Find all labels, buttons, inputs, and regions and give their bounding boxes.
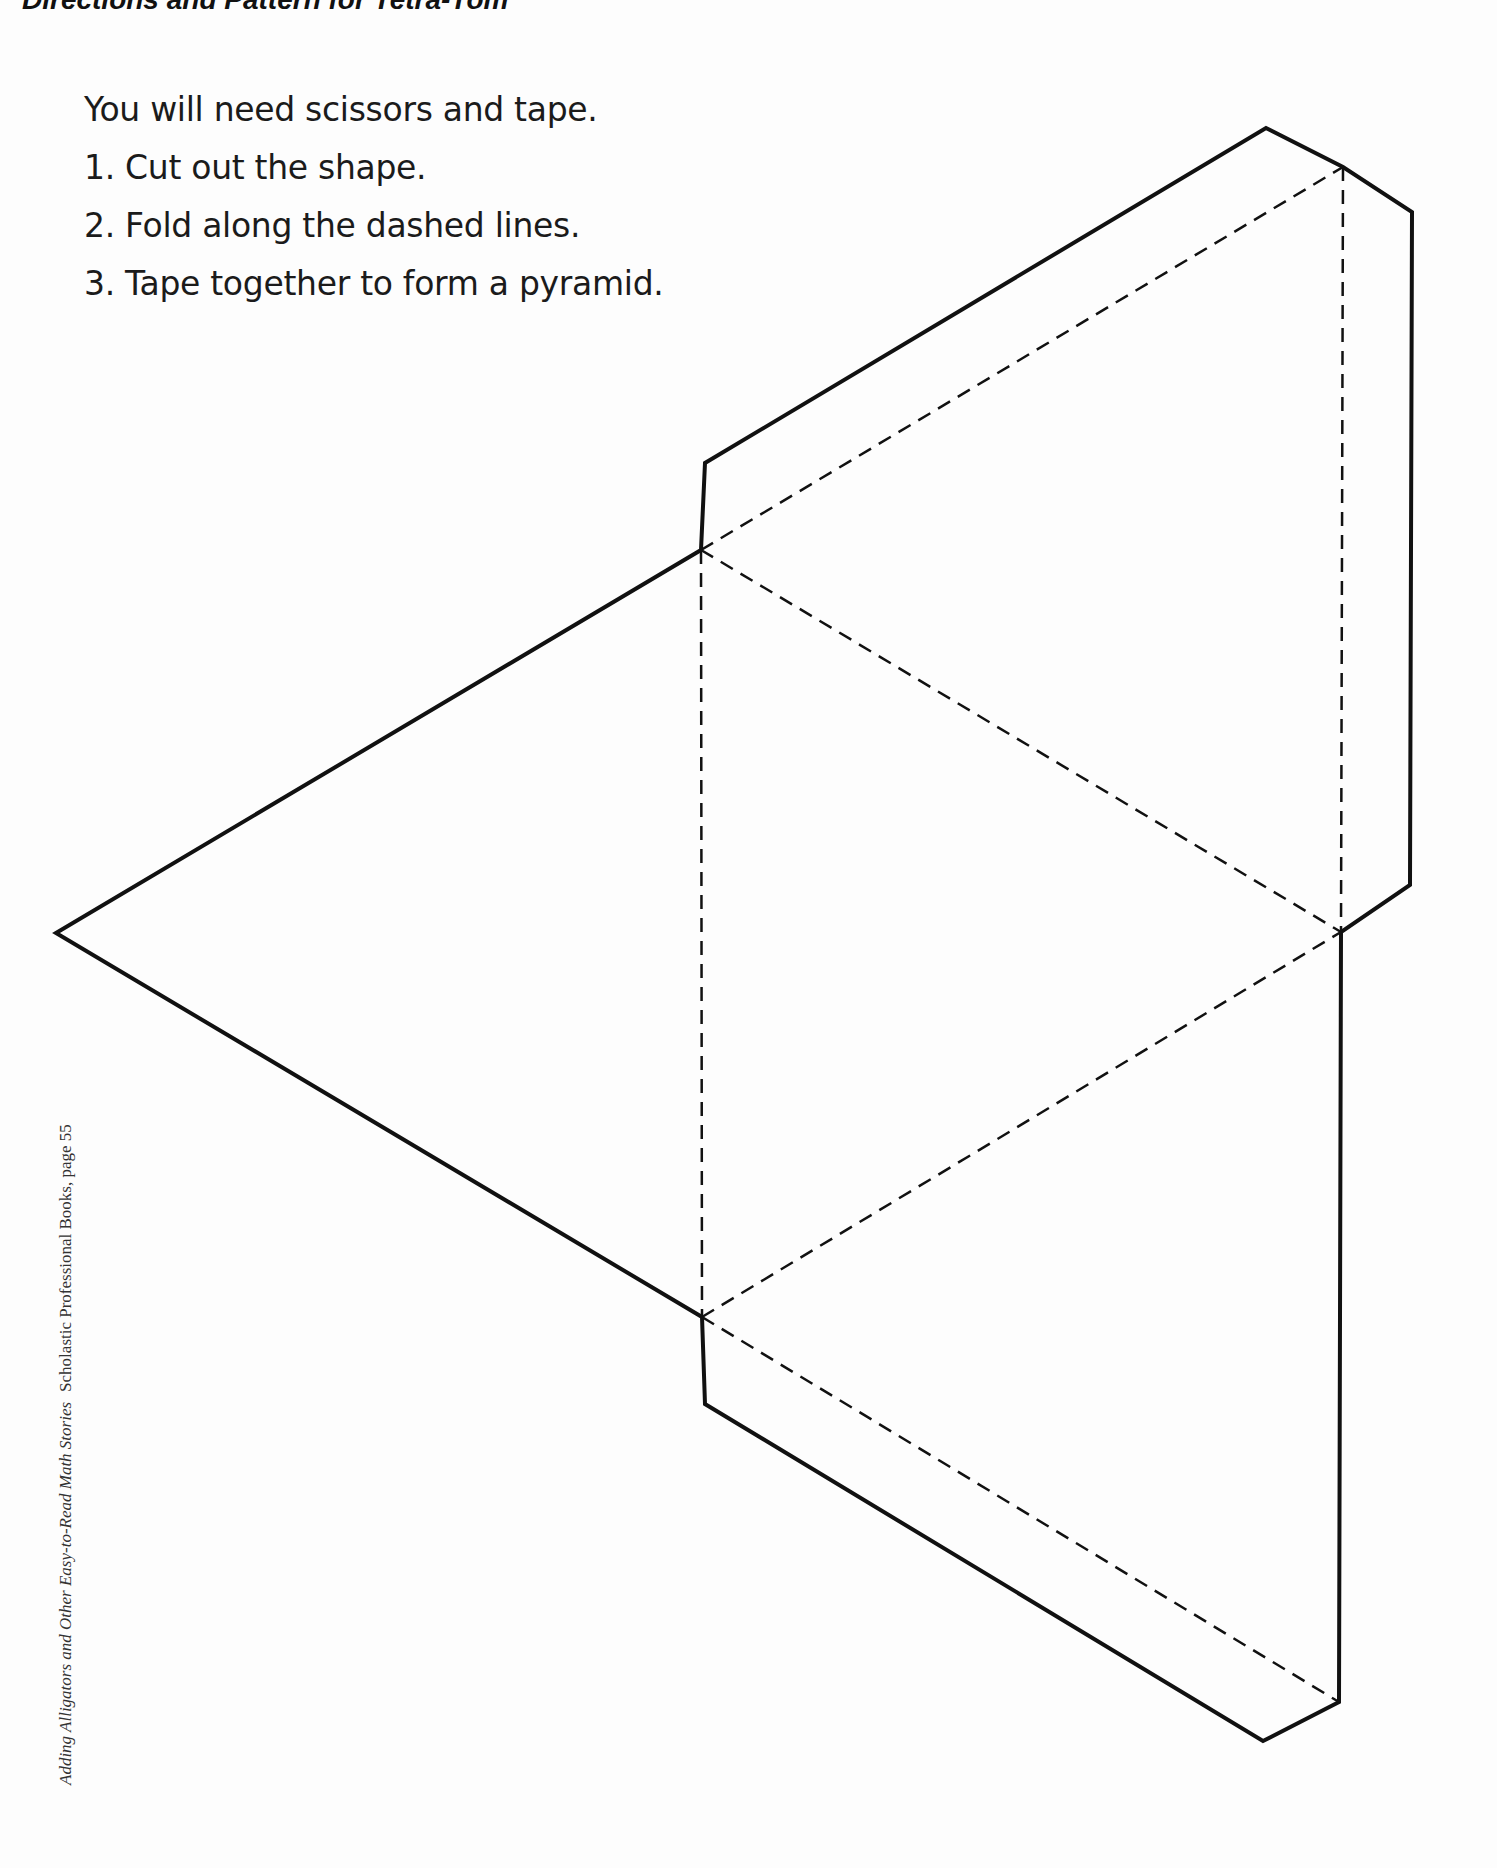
cut-outline (56, 128, 1412, 1741)
fold-line-center-upper (701, 550, 1341, 932)
fold-line-top-tab (701, 167, 1343, 550)
fold-line-left-vertical (701, 550, 702, 1317)
fold-lines (701, 167, 1343, 1702)
fold-line-right-vertical (1341, 167, 1343, 932)
fold-line-center-lower (702, 932, 1341, 1317)
fold-line-bottom-tab (702, 1317, 1339, 1702)
tetrahedron-net-diagram (0, 0, 1497, 1868)
